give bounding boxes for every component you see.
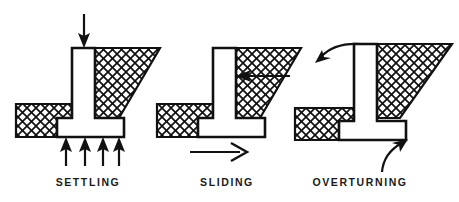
sliding-motion-arrow: [190, 143, 247, 161]
panel-sliding: SLIDING: [157, 48, 301, 188]
reaction-arrow: [97, 137, 109, 166]
upward-soil-reaction-arrows: [60, 137, 125, 166]
failure-modes-diagram: SETTLING SLIDING: [0, 0, 459, 202]
caption-sliding: SLIDING: [200, 176, 254, 188]
reaction-arrow: [60, 137, 72, 166]
backfill-soil-settling: [95, 48, 160, 118]
backfill-soil-sliding: [236, 48, 301, 118]
caption-settling: SETTLING: [56, 176, 121, 188]
retaining-wall-failure-figure: SETTLING SLIDING: [0, 0, 459, 202]
downward-load-arrow: [78, 14, 90, 48]
backfill-soil-overturning: [377, 44, 452, 118]
panel-overturning: OVERTURNING: [295, 44, 452, 188]
reaction-arrow: [113, 137, 125, 166]
reaction-arrow: [79, 137, 91, 166]
caption-overturning: OVERTURNING: [312, 176, 407, 188]
panel-settling: SETTLING: [16, 14, 160, 188]
toe-pivot-arrow: [382, 139, 408, 172]
